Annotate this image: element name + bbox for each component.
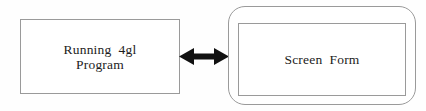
program-label-line-1: Running 4gl	[64, 42, 137, 57]
node-running-4gl-program[interactable]: Running 4gl Program	[20, 19, 180, 94]
screen-form-label: Screen Form	[284, 52, 359, 67]
program-label-line-2: Program	[76, 57, 124, 72]
diagram-canvas: Running 4gl Program Screen Form	[0, 0, 426, 111]
node-screen-form-inner[interactable]: Screen Form	[238, 23, 406, 96]
double-headed-arrow-icon	[179, 46, 229, 67]
connector-bidirectional-arrow	[179, 46, 229, 67]
